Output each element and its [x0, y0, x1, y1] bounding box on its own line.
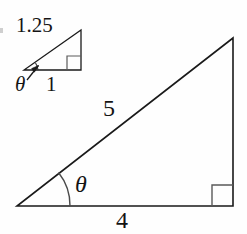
scan-artifact-mark [0, 28, 3, 33]
large-triangle-theta-label: θ [75, 172, 87, 196]
small-triangle-theta-label: θ [15, 74, 25, 95]
large-triangle-angle-arc [59, 173, 71, 207]
small-triangle-right-angle-icon [67, 56, 81, 70]
large-triangle-group [17, 38, 233, 206]
small-triangle-base-label: 1 [46, 74, 57, 95]
large-triangle-hypotenuse-label: 5 [103, 96, 115, 120]
large-triangle-right-angle-icon [212, 185, 233, 206]
geometry-figure: 1.25 1 θ 5 4 θ [0, 0, 247, 234]
small-triangle-hypotenuse-label: 1.25 [16, 15, 53, 36]
large-triangle-base-label: 4 [116, 208, 128, 232]
large-triangle-outline [17, 38, 233, 206]
small-triangle-theta-pointer-icon [27, 66, 39, 81]
